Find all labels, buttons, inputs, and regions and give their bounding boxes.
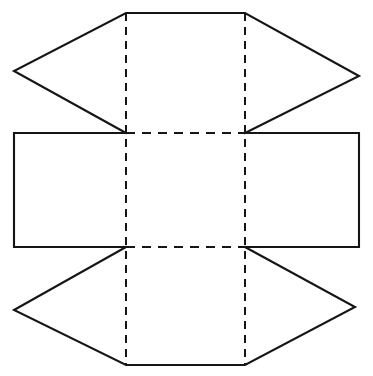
left-rectangle-fill [14,133,126,247]
face-fill-group [14,13,359,365]
center-square-fill [126,133,245,247]
right-rectangle-fill [245,133,359,247]
net-diagram-canvas [0,0,373,376]
geometric-net-figure [0,0,373,376]
